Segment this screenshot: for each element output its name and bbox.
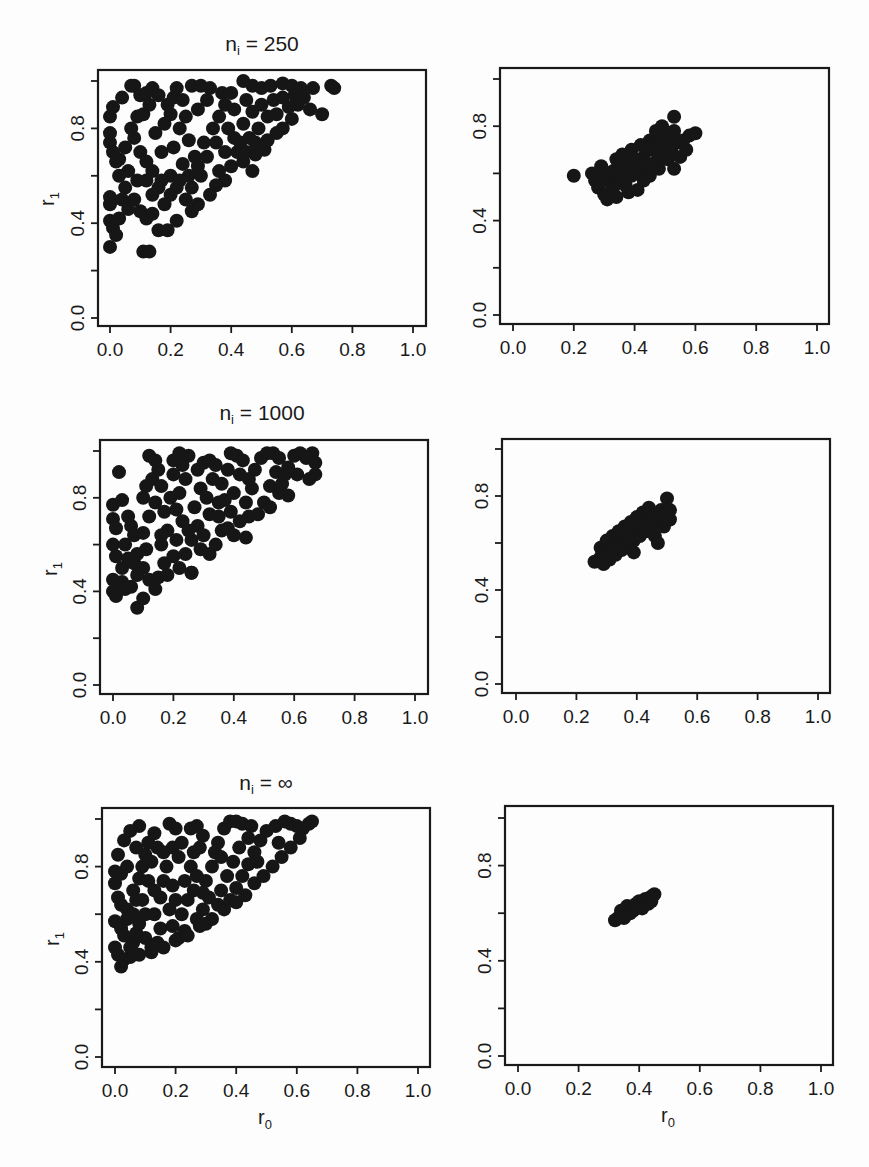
plot-frame [500, 68, 829, 324]
data-point [209, 458, 223, 472]
data-point [111, 848, 125, 862]
y-tick-label: 0.0 [469, 302, 490, 328]
data-point [185, 181, 199, 195]
data-point [161, 98, 175, 112]
data-point [142, 245, 156, 259]
y-axis: 0.00.40.8 [474, 818, 505, 1069]
data-point [106, 538, 120, 552]
y-tick-label: 0.8 [469, 113, 490, 139]
x-tick-label: 0.4 [221, 707, 248, 728]
data-point [175, 907, 189, 921]
data-point [164, 188, 178, 202]
data-point [118, 181, 132, 195]
x-axis: 0.00.20.40.60.81.0 [500, 324, 830, 358]
data-point [109, 228, 123, 242]
data-point [236, 117, 250, 131]
data-point [203, 81, 217, 95]
data-point [609, 541, 623, 555]
data-point [148, 582, 162, 596]
data-point [127, 131, 141, 145]
data-point [264, 79, 278, 93]
data-point [176, 93, 190, 107]
data-point [139, 542, 153, 556]
data-point [126, 907, 140, 921]
data-point [303, 102, 317, 116]
data-point [290, 467, 304, 481]
x-tick-label: 0.6 [284, 1080, 310, 1101]
data-point [600, 166, 614, 180]
data-point [215, 86, 229, 100]
x-tick-label: 0.6 [682, 337, 708, 358]
data-point [155, 145, 169, 159]
data-point [193, 841, 207, 855]
data-point [641, 897, 655, 911]
data-point [109, 521, 123, 535]
x-tick-label: 0.8 [743, 337, 769, 358]
x-tick-label: 0.0 [100, 707, 126, 728]
x-tick-label: 0.6 [684, 706, 710, 727]
y-tick-label: 0.0 [471, 671, 492, 697]
data-point [221, 121, 235, 135]
data-point [247, 876, 261, 890]
data-point [227, 486, 241, 500]
data-point [199, 874, 213, 888]
y-tick-label: 0.0 [474, 1043, 495, 1069]
data-point [305, 814, 319, 828]
x-tick-label: 0.6 [279, 339, 305, 360]
data-point [679, 143, 693, 157]
data-point [170, 214, 184, 228]
data-point [112, 152, 126, 166]
data-point [215, 477, 229, 491]
data-point [621, 531, 635, 545]
data-point [196, 886, 210, 900]
data-point [169, 822, 183, 836]
data-point [209, 538, 223, 552]
data-point [172, 486, 186, 500]
data-point [667, 110, 681, 124]
x-tick-label: 0.4 [621, 337, 648, 358]
data-point [169, 893, 183, 907]
data-point [248, 136, 262, 150]
data-point [117, 929, 131, 943]
data-point [212, 110, 226, 124]
data-point [144, 945, 158, 959]
data-point [147, 826, 161, 840]
x-tick-label: 0.2 [565, 1078, 591, 1099]
data-point [315, 107, 329, 121]
data-point [212, 496, 226, 510]
data-point [142, 510, 156, 524]
data-point [179, 110, 193, 124]
data-point [232, 841, 246, 855]
data-point [226, 855, 240, 869]
y-tick-label: 0.0 [67, 305, 88, 331]
x-tick-label: 1.0 [402, 707, 428, 728]
data-points [567, 110, 703, 207]
data-points [106, 446, 322, 615]
data-point [220, 869, 234, 883]
data-point [129, 893, 143, 907]
x-tick-label: 0.0 [503, 706, 529, 727]
data-point [634, 157, 648, 171]
data-point [197, 528, 211, 542]
x-tick-label: 0.2 [157, 339, 183, 360]
data-point [130, 568, 144, 582]
x-tick-label: 0.2 [160, 707, 186, 728]
data-point [242, 472, 256, 486]
data-point [136, 526, 150, 540]
scatter-panel-bottom-right: 0.00.20.40.60.81.00.00.40.8 [474, 806, 834, 1099]
x-tick-label: 0.6 [687, 1078, 713, 1099]
data-point [663, 513, 677, 527]
y-tick-label: 0.8 [471, 483, 492, 509]
data-point [205, 912, 219, 926]
data-point [154, 479, 168, 493]
x-axis: 0.00.20.40.60.81.0 [97, 326, 426, 360]
data-point [250, 855, 264, 869]
x-axis: 0.00.20.40.60.81.0 [102, 1067, 431, 1101]
data-point [185, 566, 199, 580]
data-point [169, 933, 183, 947]
data-point [120, 860, 134, 874]
data-point [272, 836, 286, 850]
x-tick-label: 1.0 [400, 339, 426, 360]
x-tick-label: 1.0 [804, 337, 830, 358]
data-point [172, 561, 186, 575]
